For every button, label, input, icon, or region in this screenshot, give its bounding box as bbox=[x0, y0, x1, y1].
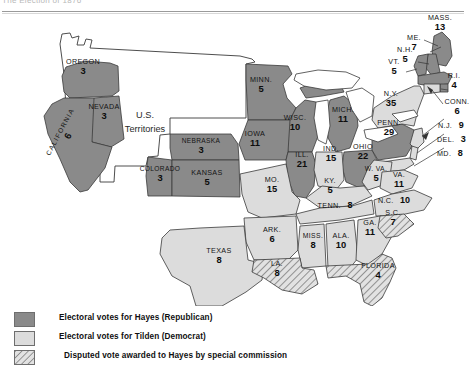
page-title: The Election of 1876 bbox=[2, 0, 81, 5]
map-legend: Electoral votes for Hayes (Republican) E… bbox=[0, 306, 471, 388]
territories-line-1: U.S. bbox=[136, 110, 154, 120]
state-south-carolina bbox=[378, 214, 414, 238]
state-nebraska bbox=[170, 134, 239, 160]
legend-swatch-tilden bbox=[14, 331, 35, 346]
territories-line-2: Territories bbox=[125, 124, 165, 134]
legend-item-hayes: Electoral votes for Hayes (Republican) bbox=[14, 312, 454, 326]
legend-swatch-disputed bbox=[14, 350, 35, 365]
state-arkansas bbox=[244, 216, 298, 260]
state-connecticut bbox=[424, 84, 440, 94]
legend-swatch-hayes bbox=[14, 312, 35, 327]
state-vermont bbox=[414, 54, 428, 76]
state-north-carolina bbox=[374, 190, 432, 216]
legend-item-tilden: Electoral votes for Tilden (Democrat) bbox=[14, 331, 454, 345]
legend-label-disputed: Disputed vote awarded to Hayes by specia… bbox=[64, 351, 287, 360]
state-new-york bbox=[372, 86, 424, 128]
state-kansas bbox=[172, 160, 240, 197]
electoral-map: OREGON 3 NEVADA 3 CALIFORNIA 6 COLORADO … bbox=[0, 14, 471, 306]
state-alabama bbox=[326, 220, 358, 268]
us-territories-label: U.S. Territories bbox=[92, 108, 198, 137]
state-indiana bbox=[314, 152, 344, 190]
legend-label-hayes: Electoral votes for Hayes (Republican) bbox=[59, 313, 213, 322]
hatch-pattern-icon bbox=[15, 351, 34, 364]
state-minnesota bbox=[246, 64, 296, 120]
state-oregon bbox=[62, 61, 119, 98]
state-iowa bbox=[239, 120, 290, 160]
state-mississippi bbox=[298, 224, 326, 268]
title-divider bbox=[2, 11, 464, 12]
legend-label-tilden: Electoral votes for Tilden (Democrat) bbox=[59, 332, 206, 341]
legend-item-disputed: Disputed vote awarded to Hayes by specia… bbox=[14, 350, 454, 364]
state-rhode-island bbox=[440, 84, 448, 92]
page-title-strip: The Election of 1876 bbox=[0, 0, 471, 9]
state-colorado bbox=[146, 157, 172, 196]
